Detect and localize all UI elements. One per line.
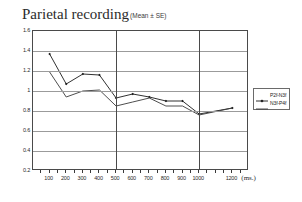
gridline-horizontal (33, 151, 247, 152)
x-axis-unit-label: (ms.) (241, 174, 256, 182)
x-axis: (ms.) 1002003004005006007008009001000120… (32, 170, 248, 192)
legend-label: N3f-P4f (270, 100, 286, 106)
gridline-horizontal (33, 111, 247, 112)
y-axis-tick-label: 0.8 (6, 107, 30, 113)
y-axis-tick-label: 0.4 (6, 147, 30, 153)
x-axis-tick-mark (123, 170, 124, 173)
x-axis-tick-label: 500 (111, 175, 120, 181)
x-axis-tick-mark (49, 170, 50, 173)
gridline-horizontal (33, 131, 247, 132)
gridline-vertical (116, 31, 117, 169)
x-axis-tick-mark (157, 170, 158, 173)
x-axis-tick-mark (74, 170, 75, 173)
series-layer (33, 31, 249, 171)
x-axis-tick-mark (132, 170, 133, 173)
x-axis-tick-mark (57, 170, 58, 173)
x-axis-tick-mark (190, 170, 191, 173)
x-axis-tick-mark (206, 170, 207, 173)
series-line-1 (50, 72, 233, 115)
gridline-horizontal (33, 91, 247, 92)
legend: P2f-N3fN3f-P4f (253, 88, 290, 110)
y-axis-tick-label: 1.4 (6, 47, 30, 53)
legend-swatch-icon (256, 91, 268, 99)
x-axis-tick-label: 400 (94, 175, 103, 181)
y-axis-tick-label: 1.6 (6, 27, 30, 33)
x-axis-tick-mark (240, 170, 241, 173)
page-title: Parietal recording (22, 6, 129, 23)
x-axis-tick-label: 600 (127, 175, 136, 181)
x-axis-tick-mark (115, 170, 116, 173)
x-axis-tick-mark (65, 170, 66, 173)
y-axis: 1.61.41.210.80.60.40.2 (8, 30, 32, 170)
x-axis-tick-mark (82, 170, 83, 173)
x-axis-tick-mark (173, 170, 174, 173)
x-axis-tick-label: 300 (78, 175, 87, 181)
y-axis-tick-label: 0.6 (6, 127, 30, 133)
data-point-marker (165, 100, 168, 103)
x-axis-tick-label: 200 (61, 175, 70, 181)
gridline-vertical (199, 31, 200, 169)
y-axis-tick-label: 0.2 (6, 167, 30, 173)
x-axis-tick-label: 900 (177, 175, 186, 181)
x-axis-tick-mark (165, 170, 166, 173)
x-axis-tick-mark (140, 170, 141, 173)
chart-title-block: Parietal recording (Mean ± SE) (22, 6, 167, 23)
x-axis-tick-mark (198, 170, 199, 173)
legend-label: P2f-N3f (270, 92, 286, 98)
x-axis-tick-mark (90, 170, 91, 173)
x-axis-tick-label: 100 (44, 175, 53, 181)
legend-item[interactable]: N3f-P4f (256, 99, 286, 107)
x-axis-tick-mark (40, 170, 41, 173)
x-axis-tick-label: 1200 (226, 175, 237, 181)
gridline-horizontal (33, 51, 247, 52)
chart-figure: Parietal recording (Mean ± SE) 1.61.41.2… (0, 0, 302, 202)
x-axis-tick-mark (148, 170, 149, 173)
legend-item[interactable]: P2f-N3f (256, 91, 286, 99)
legend-swatch-icon (256, 99, 268, 107)
x-axis-tick-mark (182, 170, 183, 173)
x-axis-tick-mark (107, 170, 108, 173)
x-axis-tick-mark (215, 170, 216, 173)
chart-subtitle: (Mean ± SE) (130, 12, 166, 19)
x-axis-tick-label: 1000 (192, 175, 203, 181)
x-axis-tick-label: 700 (144, 175, 153, 181)
x-axis-tick-mark (223, 170, 224, 173)
data-point-marker (131, 93, 134, 96)
x-axis-tick-mark (231, 170, 232, 173)
x-axis-tick-label: 800 (161, 175, 170, 181)
y-axis-tick-label: 1 (6, 87, 30, 93)
gridline-horizontal (33, 71, 247, 72)
plot-area (32, 30, 248, 170)
series-line-0 (50, 54, 233, 114)
x-axis-tick-mark (98, 170, 99, 173)
y-axis-tick-label: 1.2 (6, 67, 30, 73)
